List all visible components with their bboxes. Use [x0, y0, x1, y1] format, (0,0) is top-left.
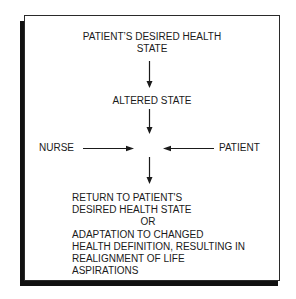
arrow-right-icon [83, 144, 135, 153]
outcome-or: OR [128, 216, 168, 228]
outcome-line-4: ADAPTATION TO CHANGED [72, 229, 204, 241]
arrow-down-icon [145, 61, 154, 89]
arrow-down-icon [145, 109, 154, 135]
outcome-line-1: RETURN TO PATIENT'S [72, 192, 182, 204]
outcome-line-2: DESIRED HEALTH STATE [72, 204, 191, 216]
outcome-line-6: REALIGNMENT OF LIFE [72, 253, 185, 265]
box-shadow-bottom [20, 281, 278, 286]
patient-label: PATIENT [219, 142, 260, 154]
arrow-left-icon [162, 144, 214, 153]
arrow-down-icon [145, 157, 154, 185]
altered-state-label: ALTERED STATE [52, 95, 252, 107]
nurse-label: NURSE [39, 142, 74, 154]
outcome-line-7: ASPIRATIONS [72, 265, 139, 277]
top-state-line-2: STATE [52, 43, 252, 55]
outcome-line-5: HEALTH DEFINITION, RESULTING IN [72, 241, 245, 253]
top-state-line-1: PATIENT’S DESIRED HEALTH [52, 31, 252, 43]
